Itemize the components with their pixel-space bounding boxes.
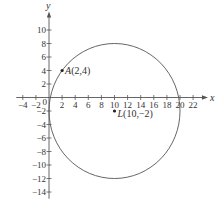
y-tick-label: −6	[36, 133, 46, 143]
x-tick-label: 8	[99, 100, 104, 110]
y-tick-label: 8	[42, 39, 47, 49]
y-tick-label: −12	[32, 174, 46, 184]
y-tick-label: −14	[32, 187, 47, 197]
point-l-label: L(10,−2)	[117, 108, 153, 120]
x-tick-label: 18	[162, 100, 172, 110]
y-tick-label: −8	[36, 147, 46, 157]
origin-label: 0	[43, 97, 48, 107]
labels: xy−4−2246810121416182022108642−2−4−6−8−1…	[18, 0, 215, 197]
x-tick-label: −4	[18, 100, 28, 110]
x-axis-arrow-icon	[202, 95, 208, 99]
y-tick-label: −4	[36, 120, 46, 130]
y-tick-label: 4	[42, 66, 47, 76]
x-tick-label: 20	[176, 100, 186, 110]
ticks	[23, 30, 193, 192]
x-tick-label: 6	[86, 100, 91, 110]
point-a-label: A(2,4)	[64, 65, 90, 77]
y-tick-label: −2	[36, 106, 46, 116]
point-a-marker	[61, 69, 64, 72]
x-tick-label: 2	[60, 100, 65, 110]
y-tick-label: −10	[32, 160, 47, 170]
y-tick-label: 6	[42, 52, 47, 62]
x-tick-label: 4	[73, 100, 78, 110]
coordinate-plot: xy−4−2246810121416182022108642−2−4−6−8−1…	[0, 0, 222, 211]
x-tick-label: 22	[189, 100, 198, 110]
y-tick-label: 2	[42, 79, 47, 89]
point-l-marker	[113, 109, 116, 112]
y-axis-label: y	[45, 0, 51, 11]
y-tick-label: 10	[37, 25, 47, 35]
y-axis-arrow-icon	[47, 12, 51, 18]
x-axis-label: x	[209, 92, 215, 103]
